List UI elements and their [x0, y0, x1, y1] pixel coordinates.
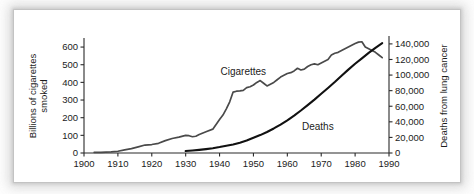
- series-annotation-cigarettes: Cigarettes: [220, 66, 266, 77]
- series-line-deaths: [186, 43, 383, 151]
- series-layer: [94, 42, 382, 153]
- line-chart: 0100200300400500600020,00040,00060,00080…: [0, 0, 474, 194]
- x-tick-label: 1910: [107, 158, 128, 169]
- x-tick-label: 1920: [141, 158, 162, 169]
- x-tick-label: 1990: [378, 158, 399, 169]
- x-tick-label: 1970: [311, 158, 332, 169]
- right-tick-label: 80,000: [395, 85, 424, 96]
- left-tick-label: 0: [73, 147, 78, 158]
- x-tick-label: 1900: [73, 158, 94, 169]
- y-axis-title-line1: Billions of cigarettes: [27, 54, 38, 139]
- y2-axis-title: Deaths from lung cancer: [438, 44, 449, 148]
- chart-figure: 0100200300400500600020,00040,00060,00080…: [0, 0, 474, 194]
- y-axis-title-line2: smoked: [38, 79, 49, 112]
- right-tick-label: 100,000: [395, 69, 429, 80]
- labels-layer: 0100200300400500600020,00040,00060,00080…: [27, 38, 449, 169]
- right-tick-label: 40,000: [395, 116, 424, 127]
- x-tick-label: 1930: [175, 158, 196, 169]
- left-tick-label: 200: [62, 112, 78, 123]
- axes-layer: [81, 36, 393, 157]
- right-tick-label: 140,000: [395, 38, 429, 49]
- x-tick-label: 1960: [277, 158, 298, 169]
- x-tick-label: 1980: [345, 158, 366, 169]
- right-tick-label: 0: [395, 147, 400, 158]
- right-tick-label: 120,000: [395, 54, 429, 65]
- x-tick-label: 1940: [209, 158, 230, 169]
- right-tick-label: 60,000: [395, 101, 424, 112]
- left-tick-label: 300: [62, 94, 78, 105]
- x-tick-label: 1950: [243, 158, 264, 169]
- right-tick-label: 20,000: [395, 132, 424, 143]
- left-tick-label: 100: [62, 130, 78, 141]
- series-line-cigarettes: [94, 42, 382, 153]
- left-tick-label: 500: [62, 59, 78, 70]
- chart-canvas: 0100200300400500600020,00040,00060,00080…: [0, 0, 474, 194]
- left-tick-label: 600: [62, 41, 78, 52]
- left-tick-label: 400: [62, 77, 78, 88]
- series-annotation-deaths: Deaths: [302, 121, 334, 132]
